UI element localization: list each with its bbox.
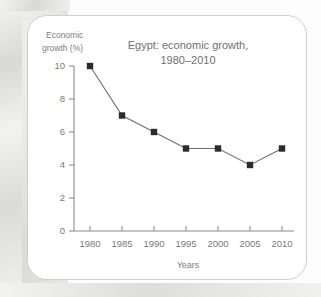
chart-svg: Egypt: economic growth, 1980–2010 Econom… <box>28 16 308 281</box>
data-point-1995 <box>183 145 189 151</box>
page-grey-top-corner <box>0 0 70 11</box>
page-grey-bottom-band <box>0 283 321 297</box>
data-point-1980 <box>87 63 93 69</box>
x-tick-label-2000: 2000 <box>207 238 228 249</box>
line-chart: Egypt: economic growth, 1980–2010 Econom… <box>28 16 308 281</box>
data-point-1990 <box>151 129 157 135</box>
series-markers <box>87 63 285 168</box>
x-tick-label-2005: 2005 <box>239 238 260 249</box>
y-tick-label-2: 2 <box>60 192 65 203</box>
x-tick-label-1995: 1995 <box>175 238 196 249</box>
page-grey-left-band <box>0 0 22 297</box>
x-tick-label-1980: 1980 <box>79 238 100 249</box>
x-tick-label-2010: 2010 <box>271 238 292 249</box>
y-tick-label-4: 4 <box>60 159 65 170</box>
y-tick-label-8: 8 <box>60 93 65 104</box>
data-point-2010 <box>279 145 285 151</box>
y-tick-label-0: 0 <box>60 225 65 236</box>
data-point-2005 <box>247 162 253 168</box>
x-tick-label-1985: 1985 <box>111 238 132 249</box>
chart-card: Egypt: economic growth, 1980–2010 Econom… <box>27 15 307 280</box>
data-point-2000 <box>215 145 221 151</box>
y-tick-label-10: 10 <box>54 60 65 71</box>
y-axis-label-line1: Economic <box>46 30 84 40</box>
y-axis-ticks <box>69 66 74 231</box>
x-axis-title: Years <box>177 260 200 270</box>
x-tick-label-1990: 1990 <box>143 238 164 249</box>
data-point-1985 <box>119 112 125 118</box>
y-tick-label-6: 6 <box>60 126 65 137</box>
y-axis-label-line2: growth (%) <box>42 43 83 53</box>
x-axis-ticks <box>90 226 282 231</box>
chart-title-line1: Egypt: economic growth, <box>128 39 248 51</box>
chart-title-line2: 1980–2010 <box>160 54 215 66</box>
